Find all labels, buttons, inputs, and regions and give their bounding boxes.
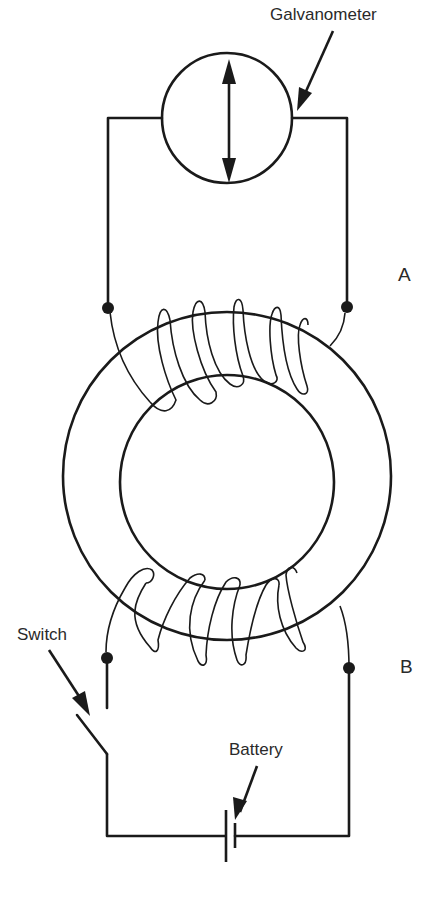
switch-blade	[77, 715, 107, 754]
galvanometer-label: Galvanometer	[270, 5, 377, 25]
galvanometer-pointer-arrow-icon	[303, 31, 333, 98]
coil-a-terminal-right	[341, 301, 353, 313]
coil-a-label: A	[398, 264, 411, 286]
battery-icon	[226, 810, 235, 862]
ring-inner	[120, 375, 334, 589]
coil-b-label: B	[400, 656, 413, 678]
switch-label: Switch	[17, 625, 67, 645]
battery-wire-left	[107, 754, 225, 836]
diagram-canvas	[0, 0, 438, 900]
battery-label: Battery	[229, 740, 283, 760]
coil-b-terminal-left	[101, 652, 113, 664]
coil-a	[110, 299, 345, 410]
ring-outer	[63, 312, 391, 640]
galvanometer-wire-left	[108, 118, 162, 307]
galvanometer-wire-right	[292, 118, 347, 307]
coil-b-terminal-right	[343, 662, 355, 674]
coil-a-terminal-left	[102, 302, 114, 314]
